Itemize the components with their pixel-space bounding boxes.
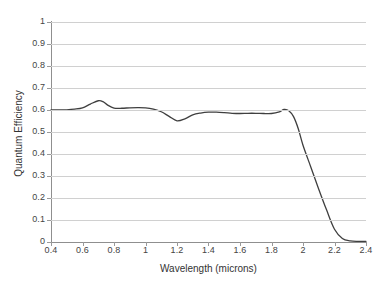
x-tick-mark xyxy=(114,242,115,246)
gridline-y xyxy=(51,220,366,221)
gridline-y xyxy=(51,154,366,155)
y-tick-label: 0.7 xyxy=(5,83,45,92)
y-tick-mark xyxy=(47,66,51,67)
gridline-y xyxy=(51,176,366,177)
gridline-y xyxy=(51,198,366,199)
y-tick-mark xyxy=(47,220,51,221)
y-tick-mark xyxy=(47,154,51,155)
x-axis-title: Wavelength (microns) xyxy=(51,263,366,274)
x-tick-mark xyxy=(177,242,178,246)
x-tick-label: 2.4 xyxy=(346,246,384,255)
x-tick-mark xyxy=(366,242,367,246)
x-tick-mark xyxy=(146,242,147,246)
x-tick-mark xyxy=(51,242,52,246)
gridline-y xyxy=(51,22,366,23)
gridline-y xyxy=(51,110,366,111)
gridline-y xyxy=(51,44,366,45)
y-tick-label: 0.3 xyxy=(5,171,45,180)
x-tick-mark xyxy=(83,242,84,246)
x-tick-mark xyxy=(272,242,273,246)
y-tick-mark xyxy=(47,176,51,177)
gridline-y xyxy=(51,132,366,133)
y-tick-label: 0.2 xyxy=(5,193,45,202)
quantum-efficiency-chart: Quantum Efficiency 00.10.20.30.40.50.60.… xyxy=(0,0,384,286)
plot-area xyxy=(51,22,366,242)
y-tick-label: 0 xyxy=(5,237,45,246)
y-tick-label: 0.6 xyxy=(5,105,45,114)
gridline-y xyxy=(51,88,366,89)
x-tick-mark xyxy=(240,242,241,246)
y-tick-label: 1 xyxy=(5,17,45,26)
x-tick-mark xyxy=(208,242,209,246)
y-tick-mark xyxy=(47,88,51,89)
y-tick-label: 0.9 xyxy=(5,39,45,48)
y-tick-label: 0.1 xyxy=(5,215,45,224)
x-tick-mark xyxy=(303,242,304,246)
y-tick-mark xyxy=(47,44,51,45)
y-tick-label: 0.5 xyxy=(5,127,45,136)
y-tick-label: 0.8 xyxy=(5,61,45,70)
y-tick-mark xyxy=(47,22,51,23)
y-tick-mark xyxy=(47,198,51,199)
y-tick-mark xyxy=(47,132,51,133)
gridline-y xyxy=(51,66,366,67)
y-tick-label: 0.4 xyxy=(5,149,45,158)
y-tick-mark xyxy=(47,110,51,111)
x-tick-mark xyxy=(335,242,336,246)
y-axis-tick-labels: 00.10.20.30.40.50.60.70.80.91 xyxy=(0,0,45,286)
